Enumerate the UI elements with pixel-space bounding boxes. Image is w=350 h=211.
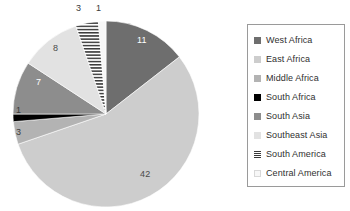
legend-item-east-africa[interactable]: East Africa — [254, 50, 344, 69]
legend-swatch-middle-africa — [254, 75, 261, 82]
legend-item-south-asia[interactable]: South Asia — [254, 107, 344, 126]
legend-label-middle-africa: Middle Africa — [266, 74, 319, 83]
slice-value-central-america: 1 — [96, 4, 101, 13]
legend-label-south-africa: South Africa — [266, 93, 316, 102]
legend-item-middle-africa[interactable]: Middle Africa — [254, 69, 344, 88]
pie-slices-group — [13, 21, 199, 207]
slice-value-south-africa-outside: 3 — [16, 128, 21, 137]
slice-value-southeast-asia: 8 — [53, 44, 58, 53]
legend-swatch-south-asia — [254, 113, 261, 120]
slice-value-east-africa: 42 — [140, 170, 150, 179]
chart-legend: West Africa East Africa Middle Africa So… — [247, 24, 345, 187]
pie-chart-figure: 11 42 1 3 7 8 3 1 West Africa East Afric… — [0, 0, 350, 211]
pie-svg — [0, 0, 240, 211]
slice-value-middle-africa-outside: 1 — [16, 106, 21, 115]
legend-swatch-south-africa — [254, 94, 261, 101]
legend-swatch-central-america — [254, 170, 261, 177]
legend-label-south-asia: South Asia — [266, 112, 310, 121]
legend-swatch-west-africa — [254, 37, 261, 44]
legend-label-west-africa: West Africa — [266, 36, 312, 45]
legend-label-south-america: South America — [266, 150, 326, 159]
slice-value-south-asia: 7 — [36, 78, 41, 87]
legend-item-central-america[interactable]: Central America — [254, 164, 344, 183]
legend-swatch-south-america — [254, 151, 261, 158]
legend-label-southeast-asia: Southeast Asia — [266, 131, 327, 140]
legend-swatch-southeast-asia — [254, 132, 261, 139]
legend-label-central-america: Central America — [266, 169, 332, 178]
legend-item-southeast-asia[interactable]: Southeast Asia — [254, 126, 344, 145]
legend-item-west-africa[interactable]: West Africa — [254, 31, 344, 50]
slice-value-south-america: 3 — [76, 4, 81, 13]
slice-value-west-africa: 11 — [137, 36, 147, 45]
legend-item-south-africa[interactable]: South Africa — [254, 88, 344, 107]
legend-swatch-east-africa — [254, 56, 261, 63]
legend-item-south-america[interactable]: South America — [254, 145, 344, 164]
pie-plot-area: 11 42 1 3 7 8 3 1 — [0, 0, 240, 211]
legend-label-east-africa: East Africa — [266, 55, 310, 64]
